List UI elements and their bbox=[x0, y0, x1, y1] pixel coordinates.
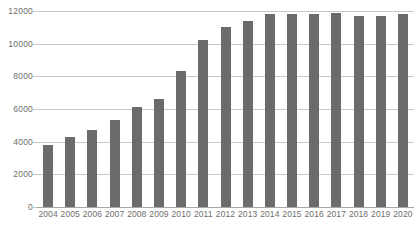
x-axis-tick-label: 2017 bbox=[327, 210, 346, 219]
x-axis-tick-label: 2013 bbox=[238, 210, 257, 219]
bar bbox=[354, 16, 364, 207]
y-axis-tick-label: 0 bbox=[0, 203, 33, 212]
bar bbox=[309, 14, 319, 207]
bar bbox=[331, 13, 341, 207]
bar bbox=[287, 14, 297, 207]
y-axis-tick-mark bbox=[33, 76, 37, 77]
y-axis-tick-label: 8000 bbox=[0, 72, 33, 81]
x-axis-tick-label: 2020 bbox=[393, 210, 412, 219]
y-axis-tick-label: 6000 bbox=[0, 105, 33, 114]
bar bbox=[176, 71, 186, 207]
bar bbox=[376, 16, 386, 207]
x-axis: 2004200520062007200820092010201120122013… bbox=[37, 210, 414, 226]
bar bbox=[87, 130, 97, 207]
bar-chart: 020004000600080001000012000 200420052006… bbox=[0, 0, 416, 235]
bar bbox=[43, 145, 53, 207]
x-axis-tick-label: 2005 bbox=[61, 210, 80, 219]
x-axis-tick-label: 2006 bbox=[83, 210, 102, 219]
x-axis-tick-label: 2010 bbox=[171, 210, 190, 219]
x-axis-tick-label: 2011 bbox=[194, 210, 213, 219]
x-axis-tick-label: 2016 bbox=[305, 210, 324, 219]
x-axis-tick-label: 2015 bbox=[282, 210, 301, 219]
x-axis-tick-label: 2014 bbox=[260, 210, 279, 219]
x-axis-tick-label: 2012 bbox=[216, 210, 235, 219]
bars-layer bbox=[37, 11, 414, 207]
x-axis-tick-label: 2018 bbox=[349, 210, 368, 219]
y-axis-tick-mark bbox=[33, 11, 37, 12]
x-axis-tick-label: 2019 bbox=[371, 210, 390, 219]
y-axis-tick-mark bbox=[33, 142, 37, 143]
bar bbox=[398, 14, 408, 207]
y-axis-tick-mark bbox=[33, 174, 37, 175]
x-axis-tick-label: 2008 bbox=[127, 210, 146, 219]
bar bbox=[154, 99, 164, 207]
bar bbox=[132, 107, 142, 207]
x-axis-tick-label: 2007 bbox=[105, 210, 124, 219]
bar bbox=[221, 27, 231, 207]
bar bbox=[265, 14, 275, 207]
y-axis-tick-label: 4000 bbox=[0, 137, 33, 146]
y-axis-tick-mark bbox=[33, 44, 37, 45]
y-axis-tick-label: 2000 bbox=[0, 170, 33, 179]
x-axis-tick-label: 2009 bbox=[149, 210, 168, 219]
y-axis-tick-mark bbox=[33, 207, 37, 208]
y-axis-tick-mark bbox=[33, 109, 37, 110]
bar bbox=[65, 137, 75, 207]
y-axis-tick-label: 10000 bbox=[0, 39, 33, 48]
bar bbox=[198, 40, 208, 207]
x-axis-tick-label: 2004 bbox=[38, 210, 57, 219]
bar bbox=[110, 120, 120, 207]
y-axis-tick-label: 12000 bbox=[0, 7, 33, 16]
bar bbox=[243, 21, 253, 207]
axis-baseline bbox=[37, 207, 414, 208]
y-axis: 020004000600080001000012000 bbox=[0, 11, 33, 207]
